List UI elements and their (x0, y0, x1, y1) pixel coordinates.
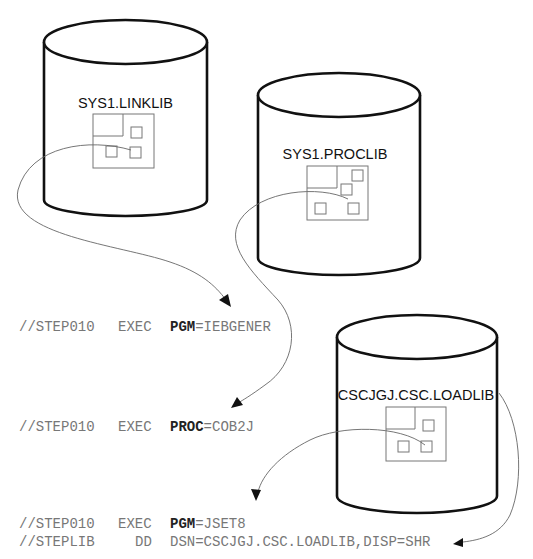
dataset-label-linklib: SYS1.LINKLIB (78, 95, 173, 111)
jcl-value: =IEBGENER (195, 319, 271, 335)
dataset-cylinder-loadlib: CSCJGJ.CSC.LOADLIB (337, 315, 497, 513)
jcl-line-2: //STEP010 EXEC PROC=COB2J (19, 419, 254, 435)
arrowhead-icon (251, 489, 261, 501)
dataset-cylinder-proclib: SYS1.PROCLIB (258, 73, 420, 275)
jcl-line-4: //STEPLIB DD DSN=CSCJGJ.CSC.LOADLIB,DISP… (19, 534, 431, 550)
jcl-name: //STEP010 (19, 516, 95, 532)
jcl-keyword: PGM (170, 319, 195, 335)
jcl-name: //STEP010 (19, 419, 95, 435)
dataset-cylinder-linklib: SYS1.LINKLIB (44, 20, 207, 216)
jcl-value: DSN=CSCJGJ.CSC.LOADLIB,DISP=SHR (170, 534, 431, 550)
jcl-keyword: PGM (170, 516, 195, 532)
dataset-label-loadlib: CSCJGJ.CSC.LOADLIB (338, 387, 494, 403)
jcl-name: //STEP010 (19, 319, 95, 335)
jcl-op: DD (135, 534, 152, 550)
jcl-value: =COB2J (204, 419, 254, 435)
jcl-value: =JSET8 (195, 516, 245, 532)
arrowhead-icon (231, 397, 243, 408)
arrowhead-icon (219, 294, 231, 307)
jcl-name: //STEPLIB (19, 534, 95, 550)
jcl-line-3: //STEP010 EXEC PGM=JSET8 (19, 516, 246, 532)
jcl-op: EXEC (118, 419, 152, 435)
jcl-op: EXEC (118, 516, 152, 532)
jcl-op: EXEC (118, 319, 152, 335)
jcl-keyword: PROC (170, 419, 204, 435)
arrowhead-icon (453, 538, 463, 547)
jcl-library-diagram: SYS1.LINKLIB SYS1.PROCLIB CSCJGJ.CSC.LOA… (0, 0, 533, 559)
dataset-label-proclib: SYS1.PROCLIB (283, 146, 388, 162)
jcl-line-1: //STEP010 EXEC PGM=IEBGENER (19, 319, 271, 335)
